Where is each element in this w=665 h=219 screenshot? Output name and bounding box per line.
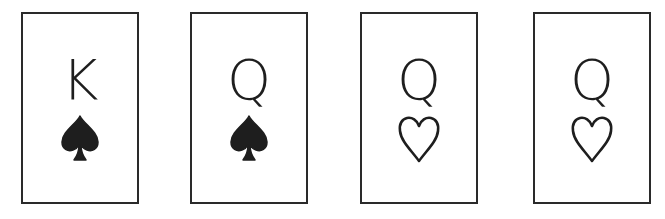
spade-icon bbox=[58, 114, 102, 164]
heart-icon bbox=[397, 114, 441, 164]
card-rank: Q bbox=[192, 52, 306, 108]
card-rank: Q bbox=[535, 52, 649, 108]
card-king-of-spades[interactable]: K bbox=[21, 12, 139, 204]
card-rank: Q bbox=[362, 52, 476, 108]
spade-icon bbox=[227, 114, 271, 164]
card-queen-of-hearts[interactable]: Q bbox=[533, 12, 651, 204]
heart-icon bbox=[570, 114, 614, 164]
card-rank: K bbox=[23, 52, 137, 108]
card-queen-of-spades[interactable]: Q bbox=[190, 12, 308, 204]
card-queen-of-hearts[interactable]: Q bbox=[360, 12, 478, 204]
